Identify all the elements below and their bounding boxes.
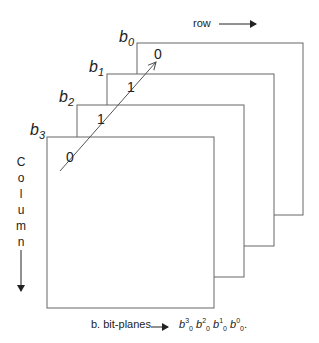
plane-label-b2: b2: [59, 88, 74, 108]
bit-value-b0: 0: [154, 46, 162, 62]
column-label: C o l u m n: [15, 154, 27, 250]
bit-value-b1: 1: [127, 79, 135, 95]
caption: b. bit-planes b30 b20 b10 b00.: [91, 317, 247, 332]
plane-label-b1: b1: [89, 58, 104, 78]
row-label: row: [193, 17, 211, 29]
bit-value-b2: 1: [97, 111, 105, 127]
plane-label-b0: b0: [119, 28, 134, 48]
bit-value-b3: 0: [66, 149, 74, 165]
plane-label-b3: b3: [30, 121, 45, 141]
